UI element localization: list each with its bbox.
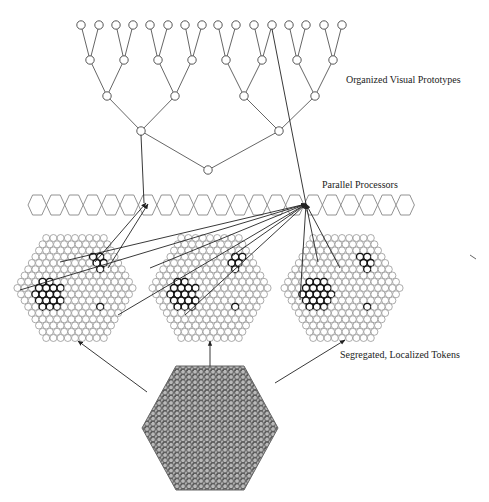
token-maps: [14, 235, 403, 342]
tree-node: [302, 21, 310, 29]
tree-node: [275, 127, 283, 135]
tree-node: [285, 21, 293, 29]
tree-node: [188, 56, 196, 64]
processor-cell: [230, 195, 248, 215]
tree-node: [146, 21, 154, 29]
processor-cell: [249, 195, 267, 215]
token-map: [14, 235, 136, 342]
tree-node: [86, 56, 94, 64]
processor-cell: [396, 195, 414, 215]
tree-node: [181, 21, 189, 29]
processor-cell: [175, 195, 193, 215]
token-map: [281, 235, 403, 342]
prototype-tree: [77, 21, 346, 174]
processor-cell: [341, 195, 359, 215]
label-organized-visual-prototypes: Organized Visual Prototypes: [346, 74, 461, 85]
processor-cell: [102, 195, 120, 215]
tree-node: [293, 56, 301, 64]
tree-node: [222, 56, 230, 64]
tree-node: [320, 21, 328, 29]
tree-node: [338, 21, 346, 29]
processor-cell: [194, 195, 212, 215]
processor-cell: [322, 195, 340, 215]
processor-cell: [65, 195, 83, 215]
tree-node: [258, 56, 266, 64]
processor-cell: [378, 195, 396, 215]
processor-cell: [267, 195, 285, 215]
processor-cell: [157, 195, 175, 215]
processor-cell: [359, 195, 377, 215]
tree-node: [311, 92, 319, 100]
tree-node: [164, 21, 172, 29]
label-segregated-localized-tokens: Segregated, Localized Tokens: [340, 349, 460, 360]
processor-cell: [83, 195, 101, 215]
input-image-hexagon: [142, 366, 278, 490]
tree-node: [103, 92, 111, 100]
tree-node: [171, 92, 179, 100]
tree-node: [129, 21, 137, 29]
tree-node: [329, 56, 337, 64]
processor-cell: [120, 195, 138, 215]
tree-node: [268, 21, 276, 29]
processor-cell: [212, 195, 230, 215]
tree-node: [77, 21, 85, 29]
tree-node: [198, 21, 206, 29]
tree-node: [232, 21, 240, 29]
tree-node: [154, 56, 162, 64]
tree-node: [240, 92, 248, 100]
tree-node: [112, 21, 120, 29]
processor-cell: [46, 195, 64, 215]
label-parallel-processors: Parallel Processors: [322, 179, 398, 190]
scan-artifact-mark: [470, 255, 476, 259]
parallel-processor-row: [28, 195, 414, 215]
tree-node: [250, 21, 258, 29]
tree-node: [95, 21, 103, 29]
token-map: [149, 235, 271, 342]
processor-cell: [28, 195, 46, 215]
tree-node: [120, 56, 128, 64]
tree-node: [204, 166, 212, 174]
tree-node: [137, 127, 145, 135]
tree-node: [214, 21, 222, 29]
input-image-texture: [142, 366, 278, 490]
